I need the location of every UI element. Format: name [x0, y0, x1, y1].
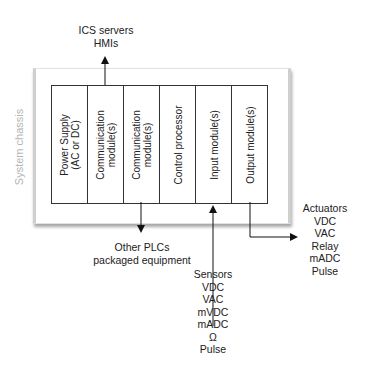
arrow-right-icon	[250, 202, 296, 237]
actuators-label: Actuators VDC VAC Relay mADC Pulse	[298, 202, 352, 277]
label-line: Sensors	[188, 268, 238, 281]
connection-arrows	[0, 0, 366, 377]
label-line: Pulse	[188, 343, 238, 356]
top-connection-label: ICS servers HMIs	[75, 24, 137, 49]
label-line: VAC	[298, 227, 352, 240]
sensors-label: Sensors VDC VAC mVDC mADC Ω Pulse	[188, 268, 238, 356]
label-line: mADC	[188, 318, 238, 331]
label-line: VDC	[298, 215, 352, 228]
label-line: Ω	[188, 331, 238, 344]
label-line: Other PLCs	[90, 241, 194, 254]
label-line: Actuators	[298, 202, 352, 215]
label-line: VDC	[188, 281, 238, 294]
label-line: packaged equipment	[90, 254, 194, 267]
label-line: ICS servers	[75, 24, 137, 37]
comm-connection-label: Other PLCs packaged equipment	[90, 241, 194, 266]
label-line: Pulse	[298, 265, 352, 278]
label-line: mADC	[298, 252, 352, 265]
label-line: HMIs	[75, 37, 137, 50]
label-line: VAC	[188, 293, 238, 306]
label-line: Relay	[298, 240, 352, 253]
label-line: mVDC	[188, 306, 238, 319]
